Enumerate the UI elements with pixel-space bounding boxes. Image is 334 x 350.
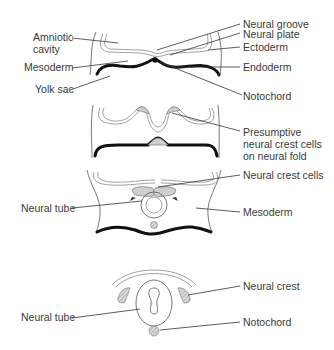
label-mesoderm: Mesoderm: [243, 206, 293, 218]
notochord-dot: [149, 326, 159, 336]
leader-amniotic: [72, 38, 118, 43]
label-mesoderm: Mesoderm: [24, 61, 74, 73]
arrow-right-icon: [172, 197, 178, 201]
leader-neural-tube: [72, 201, 142, 208]
leader-ectoderm: [208, 47, 240, 50]
left-wall: [90, 32, 96, 75]
label-neural-crest: Neural crest: [243, 280, 300, 292]
label-neural-crest-cells: Neural crest cells: [243, 169, 324, 181]
right-wall: [218, 105, 219, 158]
label-presumptive-1: Presumptive: [243, 126, 302, 138]
label-presumptive-2: neural crest cells: [243, 138, 322, 150]
neural-tube-outer: [136, 280, 172, 326]
label-notochord: Notochord: [243, 316, 292, 328]
panel-stage-4: Neural crest Neural tube Notochord: [21, 270, 300, 336]
leader-notochord: [160, 322, 240, 330]
notochord-dot: [152, 57, 158, 63]
panel-stage-3: Neural crest cells Neural tube Mesoderm: [21, 169, 324, 234]
ectoderm-inner: [105, 34, 208, 54]
right-wall: [218, 32, 221, 75]
neural-tube-outer: [141, 192, 167, 218]
ectoderm-arc-outer: [112, 270, 196, 285]
arrow-left-icon: [130, 197, 136, 201]
leader-neural-plate: [170, 33, 240, 55]
label-presumptive-3: on neural fold: [243, 150, 307, 162]
label-neural-plate: Neural plate: [243, 28, 300, 40]
leader-neural-crest: [188, 286, 240, 295]
neural-crest-right: [178, 288, 190, 303]
label-neural-tube: Neural tube: [21, 202, 75, 214]
label-ectoderm: Ectoderm: [243, 41, 288, 53]
panel-stage-1: Amniotic cavity Mesoderm Yolk sac Neural…: [24, 18, 309, 102]
left-wall: [91, 105, 93, 158]
notochord-dot: [151, 222, 158, 229]
label-notochord: Notochord: [243, 90, 292, 102]
neural-tube-lumen: [146, 197, 162, 213]
leader-neural-tube: [72, 309, 140, 318]
neural-tube-lumen: [149, 288, 160, 314]
label-cavity: cavity: [33, 43, 61, 55]
neural-crest-left: [118, 288, 130, 303]
ectoderm-inner: [98, 172, 214, 182]
leader-mesoderm: [196, 208, 240, 212]
label-yolk-sac: Yolk sac: [35, 83, 74, 95]
leader-yolk: [70, 76, 110, 90]
neural-tube-formation-diagram: Amniotic cavity Mesoderm Yolk sac Neural…: [0, 0, 334, 350]
ectoderm-outer: [94, 172, 218, 185]
presumptive-crest-right: [167, 107, 180, 114]
ectoderm-outer: [99, 108, 214, 132]
label-amniotic: Amniotic: [33, 31, 73, 43]
panel-stage-2: Presumptive neural crest cells on neural…: [91, 105, 321, 162]
leader-presumptive: [172, 113, 240, 131]
neural-crest-cells-right: [154, 187, 176, 197]
presumptive-crest-left: [136, 107, 149, 114]
label-neural-tube: Neural tube: [21, 311, 75, 323]
left-wall: [87, 170, 100, 232]
label-endoderm: Endoderm: [243, 61, 292, 73]
neural-crest-cells-left: [132, 187, 154, 197]
